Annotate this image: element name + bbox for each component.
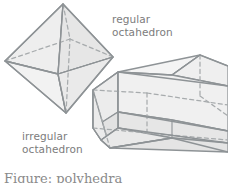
figure-caption-clipped: Figure: polyhedra bbox=[0, 172, 228, 183]
label-regular-line1: regular bbox=[112, 13, 173, 26]
label-irregular-octahedron: irregular octahedron bbox=[22, 130, 83, 155]
irregular-octahedron-shape bbox=[93, 55, 228, 152]
label-regular-octahedron: regular octahedron bbox=[112, 13, 173, 38]
label-regular-line2: octahedron bbox=[112, 26, 173, 39]
label-irregular-line2: octahedron bbox=[22, 143, 83, 156]
figure-page: regular octahedron irregular octahedron … bbox=[0, 0, 228, 183]
figure-caption-text: Figure: polyhedra bbox=[4, 172, 122, 183]
label-irregular-line1: irregular bbox=[22, 130, 83, 143]
